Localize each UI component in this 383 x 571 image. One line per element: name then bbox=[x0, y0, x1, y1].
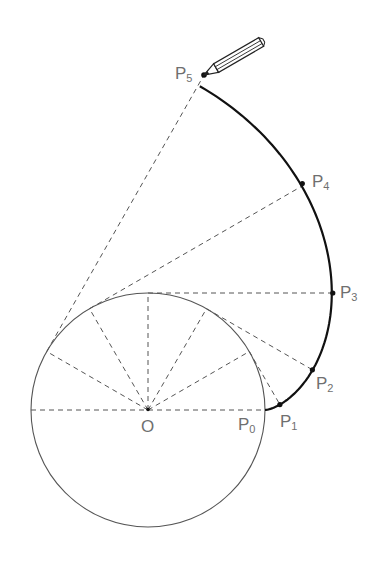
involute-diagram: O P0 P1 P2 P3 P4 P5 bbox=[0, 0, 383, 571]
radius-60 bbox=[148, 309, 207, 410]
label-o: O bbox=[141, 417, 154, 436]
tangent-p2 bbox=[207, 309, 313, 370]
point-p1 bbox=[277, 402, 282, 407]
center-point bbox=[146, 408, 150, 412]
label-p2: P2 bbox=[316, 374, 333, 394]
label-p0: P0 bbox=[238, 415, 255, 435]
involute-curve bbox=[200, 86, 332, 410]
point-p2 bbox=[310, 367, 315, 372]
curve-points bbox=[146, 72, 335, 411]
radial-lines bbox=[31, 293, 265, 410]
point-p3 bbox=[330, 290, 335, 295]
label-p1: P1 bbox=[280, 412, 297, 432]
tangent-p5 bbox=[47, 75, 204, 352]
tangent-p4 bbox=[90, 186, 303, 309]
label-p4: P4 bbox=[312, 172, 329, 192]
label-p3: P3 bbox=[340, 283, 357, 303]
radius-150 bbox=[47, 352, 148, 411]
point-p4 bbox=[300, 181, 305, 186]
tangent-lines bbox=[47, 75, 332, 405]
pencil-icon bbox=[202, 36, 267, 79]
label-p5: P5 bbox=[175, 64, 192, 84]
radius-120 bbox=[90, 309, 149, 410]
radius-30 bbox=[148, 352, 249, 411]
